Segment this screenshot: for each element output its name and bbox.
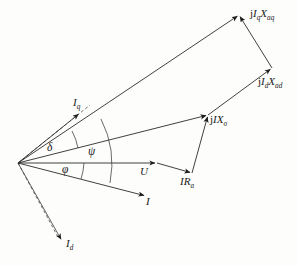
label-ira: IRa xyxy=(180,176,194,190)
label-delta-angle: δ xyxy=(47,142,52,154)
label-id: Id xyxy=(66,238,73,252)
id-vector-arrowhead-line xyxy=(18,163,61,239)
jiqxaq-vector-line xyxy=(240,17,272,68)
label-jiqxaq: jIqXaq xyxy=(250,8,274,22)
i-vector-line xyxy=(18,163,144,196)
label-phi-angle: φ xyxy=(62,164,68,176)
label-iq: Iq xyxy=(73,97,80,111)
jixsigma-vector-line xyxy=(192,117,207,173)
label-i: I xyxy=(146,196,150,207)
label-jixsigma: jIXσ xyxy=(210,114,227,128)
phasor-diagram-figure: jIqXaq jIdXad jIXσ IRa U I Iq Id δ ψ φ xyxy=(0,0,298,266)
phi-angle-arc xyxy=(81,163,84,179)
label-jidxad: jIdXad xyxy=(258,76,282,90)
label-psi-angle: ψ xyxy=(88,146,95,158)
phasor-diagram-canvas xyxy=(0,0,298,266)
internal-emf-line-to-jixsigma xyxy=(18,115,206,163)
psi-angle-arc xyxy=(101,119,112,183)
label-u: U xyxy=(140,166,148,177)
delta-angle-arc xyxy=(72,131,78,148)
ira-vector-line xyxy=(157,163,190,172)
